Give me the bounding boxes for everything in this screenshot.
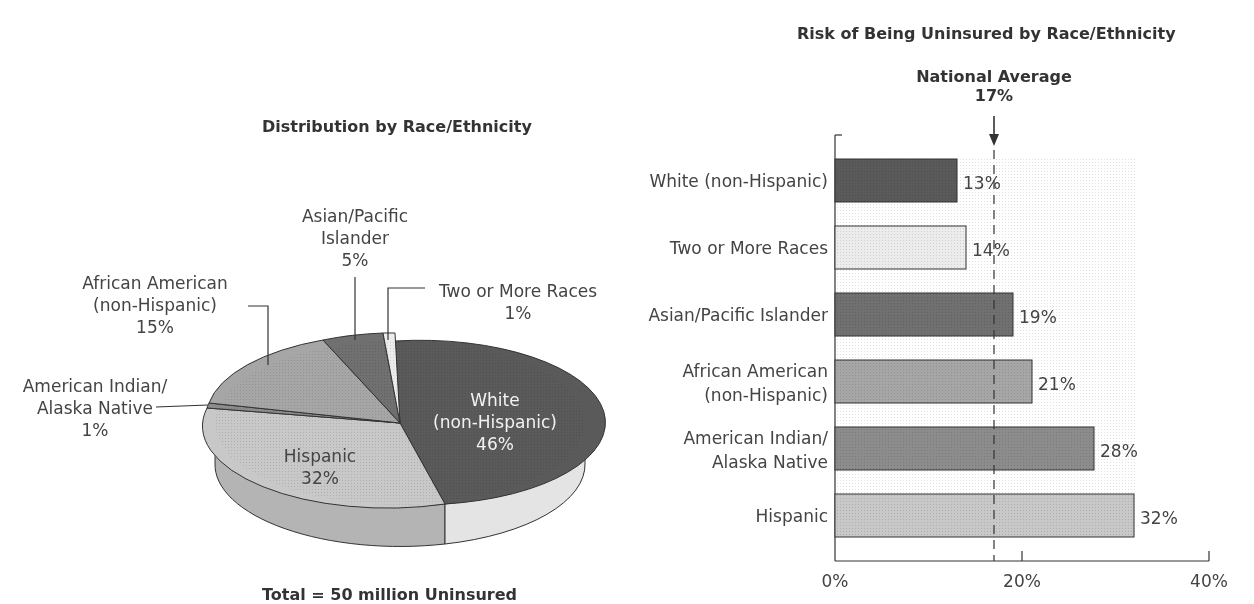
bar-x-tick-label: 40% — [1179, 570, 1239, 592]
national-average-label: National Average 17% — [894, 67, 1094, 105]
bar-value-label: 28% — [1100, 440, 1138, 462]
pie-label-hispanic: Hispanic 32% — [260, 445, 380, 489]
bar-category-label: African American (non-Hispanic) — [560, 359, 828, 407]
leader-line-two — [388, 288, 425, 340]
bar-x-tick-label: 20% — [992, 570, 1052, 592]
bar-value-label: 13% — [963, 172, 1001, 194]
bar-x-tick-label: 0% — [805, 570, 865, 592]
bar-category-label: Two or More Races — [560, 237, 828, 259]
bar-value-label: 14% — [972, 239, 1010, 261]
pie-label-asian: Asian/Pacific Islander 5% — [295, 205, 415, 271]
pie-label-aian: American Indian/ Alaska Native 1% — [10, 375, 180, 441]
bar-chart-title: Risk of Being Uninsured by Race/Ethnicit… — [797, 24, 1176, 43]
bar-value-label: 19% — [1019, 306, 1057, 328]
bar-category-label: White (non-Hispanic) — [560, 170, 828, 192]
bar-value-label: 21% — [1038, 373, 1076, 395]
bar-category-label: Asian/Pacific Islander — [560, 304, 828, 326]
bar-value-label: 32% — [1140, 507, 1178, 529]
pie-chart-footer: Total = 50 million Uninsured — [262, 585, 517, 604]
pie-label-white: White (non-Hispanic) 46% — [410, 389, 580, 455]
bar-category-label: Hispanic — [560, 505, 828, 527]
pie-label-african: African American (non-Hispanic) 15% — [70, 272, 240, 338]
bar-category-label: American Indian/ Alaska Native — [560, 426, 828, 474]
